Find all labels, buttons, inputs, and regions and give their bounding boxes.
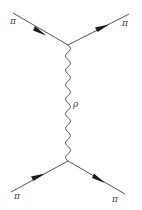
label-top-right: π: [121, 18, 129, 28]
line-bottom-right: π: [68, 161, 125, 204]
line-bottom-left: π: [11, 161, 68, 201]
label-top-left: π: [9, 16, 17, 26]
label-rho: ρ: [72, 99, 79, 109]
label-bottom-left: π: [13, 191, 21, 201]
line-top-left: π: [9, 13, 68, 45]
wavy-line: [66, 45, 71, 161]
label-bottom-right: π: [111, 194, 119, 204]
feynman-diagram: π π π π ρ: [0, 0, 142, 210]
line-top-right: π: [68, 14, 129, 45]
arrow-icon: [95, 25, 109, 33]
propagator-rho: ρ: [66, 45, 80, 161]
arrow-icon: [31, 174, 45, 182]
arrow-icon: [92, 174, 105, 184]
